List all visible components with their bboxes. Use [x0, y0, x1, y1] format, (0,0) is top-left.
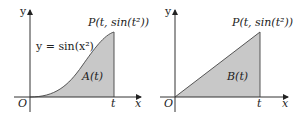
y-axis-label: y [164, 5, 172, 18]
region-b-label: B(t) [226, 70, 248, 83]
t-label: t [111, 97, 116, 110]
x-axis-label: x [282, 97, 289, 110]
left-panel: y x O t y = sin(x²) P(t, sin(t²)) A(t) [14, 5, 149, 112]
y-axis-label: y [19, 5, 27, 18]
t-label: t [257, 97, 262, 110]
origin-label: O [18, 97, 27, 110]
x-axis-label: x [135, 97, 142, 110]
origin-label: O [164, 97, 173, 110]
curve-label: y = sin(x²) [35, 40, 94, 53]
point-label: P(t, sin(t²)) [87, 16, 149, 29]
right-panel: y x O t P(t, sin(t²)) B(t) [160, 5, 293, 112]
diagram-canvas: y x O t y = sin(x²) P(t, sin(t²)) A(t) y… [0, 0, 302, 117]
point-label: P(t, sin(t²)) [231, 16, 293, 29]
region-a-label: A(t) [81, 70, 103, 83]
